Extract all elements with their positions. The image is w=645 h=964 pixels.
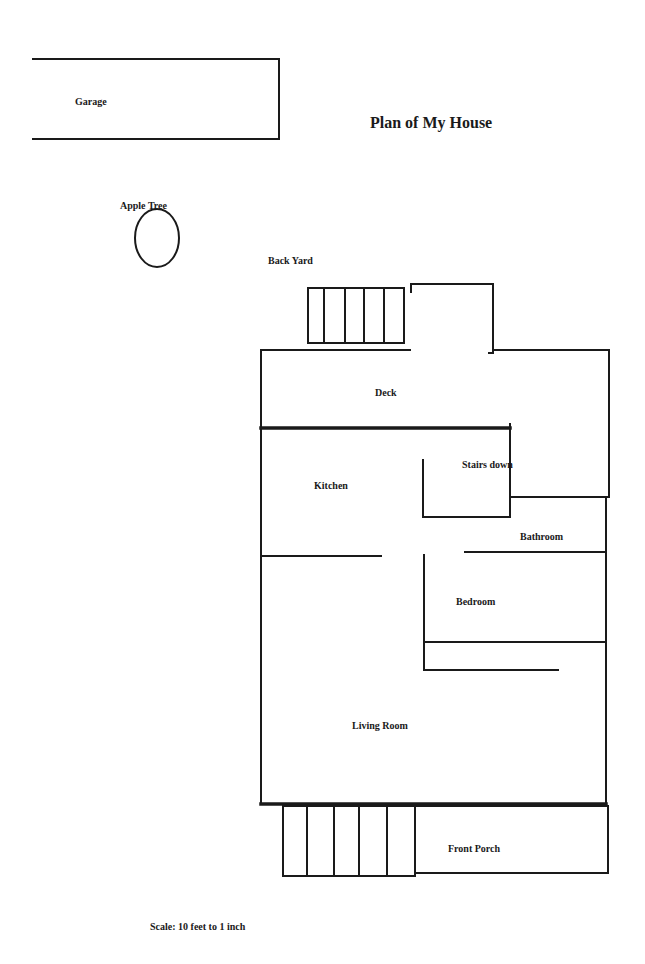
label-front-porch: Front Porch	[448, 843, 501, 854]
label-kitchen: Kitchen	[314, 480, 348, 491]
label-bathroom: Bathroom	[520, 531, 564, 542]
scale-note: Scale: 10 feet to 1 inch	[150, 921, 246, 932]
apple-tree-icon	[135, 209, 179, 267]
room-labels-group: GarageApple TreeBack YardDeckKitchenStai…	[75, 96, 564, 854]
label-garage: Garage	[75, 96, 107, 107]
label-stairs-down: Stairs down	[462, 459, 513, 470]
label-living-room: Living Room	[352, 720, 409, 731]
house-floor-plan: GarageApple TreeBack YardDeckKitchenStai…	[0, 0, 645, 964]
label-back-yard: Back Yard	[268, 255, 313, 266]
label-deck: Deck	[375, 387, 397, 398]
label-apple-tree: Apple Tree	[120, 200, 168, 211]
walls-group	[33, 59, 609, 876]
page-title: Plan of My House	[370, 114, 492, 132]
label-bedroom: Bedroom	[456, 596, 496, 607]
